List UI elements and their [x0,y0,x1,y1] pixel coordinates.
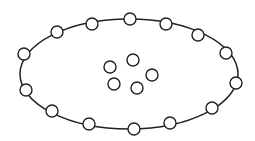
outer-node-circle [160,18,172,30]
outer-node-circle [20,84,32,96]
inner-node-circle [146,69,158,81]
outer-node-circle [83,118,95,130]
outer-node-circle [206,102,218,114]
outer-node-group [18,13,242,135]
outer-node-circle [86,18,98,30]
outer-node-circle [18,48,30,60]
outer-node-circle [51,26,63,38]
outer-node-circle [220,47,232,59]
inner-node-circle [104,61,116,73]
outer-node-circle [164,117,176,129]
inner-node-circle [108,78,120,90]
outer-node-circle [124,13,136,25]
outer-node-circle [46,105,58,117]
outer-node-circle [128,123,140,135]
outer-node-circle [192,29,204,41]
inner-node-circle [131,82,143,94]
inner-node-circle [127,54,139,66]
outer-node-circle [230,77,242,89]
inner-node-cluster [104,54,158,94]
ring-diagram [0,0,255,141]
